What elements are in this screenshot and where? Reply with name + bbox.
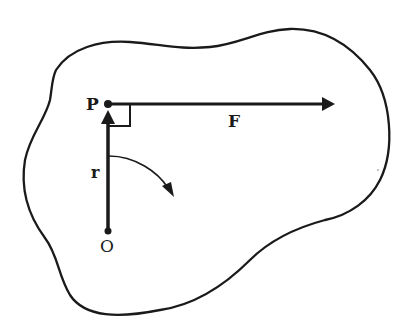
torque-diagram: P F r O bbox=[0, 0, 403, 328]
position-arrowhead-icon bbox=[101, 110, 115, 124]
origin-o-dot bbox=[105, 228, 112, 235]
rotation-arrowhead-icon bbox=[162, 182, 174, 197]
label-r: r bbox=[91, 163, 100, 182]
label-p: P bbox=[86, 94, 99, 114]
speck bbox=[377, 169, 379, 171]
label-o: O bbox=[100, 236, 114, 256]
force-arrowhead-icon bbox=[322, 97, 335, 111]
point-p-dot bbox=[104, 100, 112, 108]
rotation-arrow bbox=[109, 156, 168, 188]
body-outline bbox=[24, 29, 390, 315]
label-f: F bbox=[228, 111, 240, 131]
